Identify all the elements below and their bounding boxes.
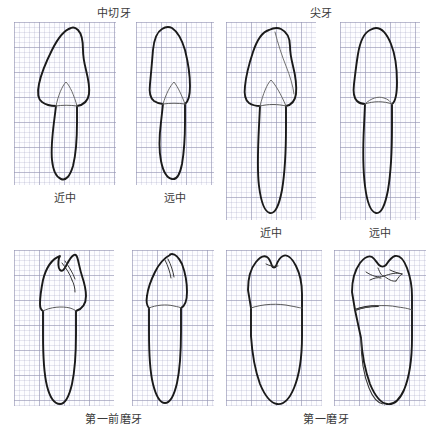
panel-canine-distal [340, 22, 420, 220]
panel-first-molar-mesial [226, 250, 322, 406]
caption-central-incisor-mesial: 近中 [14, 189, 116, 205]
panel-first-premolar-distal [132, 250, 214, 406]
caption-canine-mesial: 近中 [226, 224, 316, 240]
panel-first-molar-distal [334, 250, 426, 406]
panel-canine-mesial [226, 22, 316, 220]
group-title-central-incisor: 中切牙 [14, 4, 214, 20]
caption-canine-distal: 远中 [340, 224, 420, 240]
tooth-anatomy-figure: 中切牙 尖牙 近中 远中 近中 远中 [0, 0, 427, 438]
group-title-canine: 尖牙 [226, 4, 416, 20]
panel-first-premolar-mesial [14, 250, 114, 406]
caption-central-incisor-distal: 远中 [136, 189, 214, 205]
panel-central-incisor-distal [136, 22, 214, 185]
panel-central-incisor-mesial [14, 22, 116, 185]
caption-first-molar: 第一磨牙 [226, 410, 426, 426]
caption-first-premolar: 第一前磨牙 [14, 410, 214, 426]
